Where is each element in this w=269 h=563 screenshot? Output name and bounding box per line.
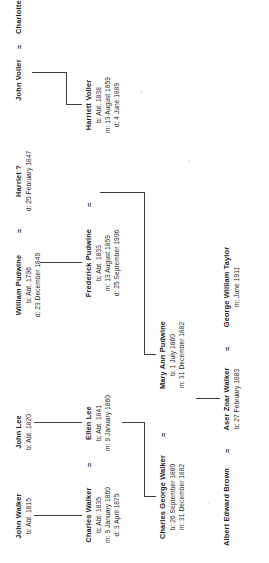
connector-to-aser-zoar-walker [210, 398, 220, 399]
person-name: William Pudwine [14, 239, 24, 331]
connector-william-pudwine-to-frederick [40, 262, 82, 263]
person-name: Harriet ? [14, 139, 24, 223]
person-birth: b: Abt. 1841 [95, 387, 104, 459]
connector-john-walker-to-charles-walker [34, 515, 82, 516]
scan-artifact [208, 502, 210, 505]
scan-artifact [60, 319, 62, 321]
person-charles-george-walker: Charles George Walker b: 26 September 18… [158, 445, 187, 549]
person-birth: b: Abt. 1815 [25, 479, 34, 553]
person-birth: b: Abt. 1820 [25, 401, 34, 463]
connector-walker-couple-cross [144, 422, 145, 497]
person-marriage: m: 13 August 1859 [104, 215, 113, 311]
person-john-walker: John Walker b: Abt. 1815 [14, 479, 34, 553]
person-death: d: 20 February 1847 [25, 139, 34, 223]
person-name: Aser Zoar Walker [222, 355, 232, 443]
connector-voller-to-harriett [66, 104, 82, 105]
person-birth: b: 1 July 1860 [169, 309, 178, 401]
family-tree-chart: John Walker b: Abt. 1815 John Lee b: Abt… [0, 0, 269, 563]
person-name: Harriett Voller [84, 61, 94, 149]
connector-pudwine-couple-cross [144, 192, 145, 355]
person-ellen-lee: Ellen Lee b: Abt. 1841 m: 9 January 1860 [84, 387, 113, 459]
person-birth: b: Abt. 1833 [95, 215, 104, 311]
person-marriage: m: 9 January 1860 [104, 475, 113, 555]
person-marriage: m: 31 December 1882 [178, 309, 187, 401]
connector-john-lee-to-ellen-lee [34, 422, 82, 423]
person-death: d: 4 June 1889 [113, 61, 122, 149]
person-name: George William Taylor [222, 235, 232, 339]
connector-pudwine-couple-drop [100, 192, 144, 193]
connector-cgw-maw-drop [196, 398, 210, 399]
person-george-william-taylor: George William Taylor m: June 1911 [222, 235, 242, 339]
person-aser-zoar-walker: Aser Zoar Walker b: 27 February 1883 [222, 355, 242, 443]
person-charles-walker: Charles Walker b: Abt. 1835 m: 9 January… [84, 475, 121, 555]
person-marriage: m: 9 January 1860 [104, 387, 113, 459]
person-death: d: 25 September 1906 [113, 215, 122, 311]
person-name: John Walker [14, 479, 24, 553]
connector-walker-couple-drop [122, 422, 144, 423]
marriage-symbol-frederick-harriett: = [85, 203, 94, 207]
person-charlotte: Charlotte [14, 0, 25, 41]
person-name: Mary Ann Pudwine [158, 309, 168, 401]
marriage-symbol-albert-aser: = [223, 449, 232, 453]
person-harriett-voller: Harriett Voller b: Abt. 1838 m: 13 Augus… [84, 61, 121, 149]
person-death: d: 23 December 1849 [34, 239, 43, 331]
person-name: Frederick Pudwine [84, 215, 94, 311]
person-birth: b: Abt. 1796 [25, 239, 34, 331]
marriage-symbol-charlesgeorge-maryann: = [159, 433, 168, 437]
connector-to-mary-ann-pudwine [144, 354, 156, 355]
person-birth: b: 26 September 1860 [169, 445, 178, 549]
person-marriage: m: 13 August 1859 [104, 61, 113, 149]
scan-artifact [188, 159, 191, 163]
person-birth: b: 27 February 1883 [233, 355, 242, 443]
person-birth: b: Abt. 1838 [95, 61, 104, 149]
person-marriage: m: June 1911 [233, 235, 242, 339]
marriage-symbol-charles-ellen: = [85, 463, 94, 467]
rotated-chart-wrapper: John Walker b: Abt. 1815 John Lee b: Abt… [0, 0, 269, 563]
person-name: Albert Edward Brown [222, 457, 232, 557]
connector-to-charles-george-walker [144, 496, 156, 497]
person-john-voller: John Voller [14, 49, 25, 111]
person-name: John Lee [14, 401, 24, 463]
connector-voller-drop [32, 72, 66, 73]
person-name: Charles Walker [84, 475, 94, 555]
marriage-symbol-aser-george: = [223, 347, 232, 351]
scan-artifact [140, 90, 143, 93]
marriage-symbol-john-charlotte: = [15, 45, 24, 49]
person-name: Charles George Walker [158, 445, 168, 549]
person-death: d: 3 April 1875 [113, 475, 122, 555]
person-birth: b: Abt. 1835 [95, 475, 104, 555]
person-william-pudwine: William Pudwine b: Abt. 1796 d: 23 Decem… [14, 239, 43, 331]
person-name: John Voller [14, 49, 24, 111]
person-name: Ellen Lee [84, 387, 94, 459]
person-marriage: m: 31 December 1882 [178, 445, 187, 549]
marriage-symbol-william-harriet: = [15, 229, 24, 233]
person-frederick-pudwine: Frederick Pudwine b: Abt. 1833 m: 13 Aug… [84, 215, 121, 311]
person-name: Charlotte [14, 0, 24, 41]
connector-voller-cross [66, 72, 67, 105]
person-harriet-unknown: Harriet ? d: 20 February 1847 [14, 139, 34, 223]
person-john-lee: John Lee b: Abt. 1820 [14, 401, 34, 463]
person-albert-edward-brown: Albert Edward Brown [222, 457, 233, 557]
person-mary-ann-pudwine: Mary Ann Pudwine b: 1 July 1860 m: 31 De… [158, 309, 187, 401]
